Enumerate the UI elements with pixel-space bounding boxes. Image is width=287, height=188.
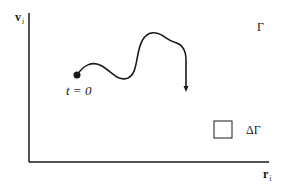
y-axis-label: vi (15, 11, 24, 23)
x-axis-label: ri (263, 168, 272, 180)
start-time-label: t = 0 (66, 84, 91, 97)
x-axis-letter: r (263, 167, 268, 181)
y-axis-letter: v (15, 10, 21, 24)
phase-space-diagram (0, 0, 287, 188)
phase-space-label: Γ (257, 21, 264, 33)
start-point (74, 72, 81, 79)
arrowhead-icon (184, 86, 189, 92)
y-axis-subscript: i (22, 17, 24, 26)
x-axis-subscript: i (269, 174, 271, 183)
trajectory-curve (77, 33, 186, 88)
volume-element-label: ΔΓ (246, 124, 261, 136)
volume-element-box (214, 121, 232, 138)
